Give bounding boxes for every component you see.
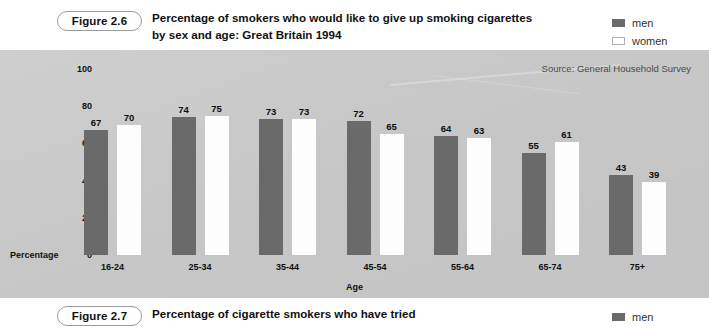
x-axis-tick-label: 16-24 (84, 262, 141, 272)
bar-men: 64 (434, 136, 458, 255)
figure-2-6-header: Figure 2.6 Percentage of smokers who wou… (0, 0, 709, 50)
bar-men: 74 (172, 117, 196, 255)
bar-value-label: 63 (461, 125, 497, 136)
bar-value-label: 39 (636, 169, 672, 180)
bar-chart-plot: 020406080100Percentage677016-24747525-34… (0, 50, 709, 298)
bar-value-label: 61 (549, 129, 585, 140)
bar-women: 73 (292, 119, 316, 255)
figure-2-6-title: Percentage of smokers who would like to … (152, 9, 592, 43)
x-axis-tick-label: 65-74 (522, 262, 579, 272)
legend-item-women: women (612, 33, 667, 48)
x-axis-tick-label: 55-64 (434, 262, 491, 272)
x-axis-label: Age (0, 282, 709, 292)
legend-label-men-2: men (632, 311, 653, 323)
x-axis-tick-label: 75+ (609, 262, 666, 272)
x-axis-tick-label: 45-54 (347, 262, 404, 272)
bar-group: 433975+ (609, 65, 666, 255)
legend-label-women: women (632, 35, 667, 47)
legend-item-men: men (612, 15, 667, 30)
bar-women: 75 (205, 116, 229, 256)
bar-value-label: 67 (78, 117, 114, 128)
figure-2-6-title-line-2: by sex and age: Great Britain 1994 (152, 26, 592, 43)
bar-value-label: 64 (428, 123, 464, 134)
bar-women: 65 (380, 134, 404, 255)
bar-men: 67 (84, 130, 108, 255)
bar-value-label: 43 (603, 162, 639, 173)
bar-value-label: 72 (341, 108, 377, 119)
bar-men: 73 (259, 119, 283, 255)
bar-group: 747525-34 (172, 65, 229, 255)
bar-women: 61 (555, 142, 579, 255)
x-axis-tick-label: 35-44 (259, 262, 316, 272)
bar-group: 646355-64 (434, 65, 491, 255)
figure-2-7-header: Figure 2.7 Percentage of cigarette smoke… (0, 298, 709, 328)
bar-value-label: 73 (253, 106, 289, 117)
figure-2-7-title-line-1: Percentage of cigarette smokers who have… (152, 307, 416, 320)
bar-women: 39 (642, 182, 666, 255)
bar-men: 55 (522, 153, 546, 255)
x-axis-tick-label: 25-34 (172, 262, 229, 272)
bar-group: 556165-74 (522, 65, 579, 255)
bar-value-label: 74 (166, 104, 202, 115)
figure-2-6-legend: men women (612, 15, 667, 51)
chart-panel: Source: General Household Survey 0204060… (0, 50, 709, 298)
bar-group: 677016-24 (84, 65, 141, 255)
bar-women: 70 (117, 125, 141, 255)
y-axis-label: Percentage (10, 250, 59, 260)
legend-swatch-women-icon (612, 37, 625, 45)
figure-2-7-title: Percentage of cigarette smokers who have… (152, 305, 592, 322)
legend-swatch-men-icon (612, 19, 625, 27)
bar-value-label: 65 (374, 121, 410, 132)
figure-2-6-badge: Figure 2.6 (57, 11, 142, 31)
figure-2-7-badge: Figure 2.7 (57, 306, 142, 326)
legend-label-men: men (632, 17, 653, 29)
bar-value-label: 55 (516, 140, 552, 151)
bar-group: 726545-54 (347, 65, 404, 255)
figure-2-6-title-line-1: Percentage of smokers who would like to … (152, 11, 532, 24)
bar-women: 63 (467, 138, 491, 255)
bar-value-label: 73 (286, 106, 322, 117)
legend-item-men-2: men (612, 309, 653, 324)
legend-swatch-men-icon (612, 313, 625, 321)
bar-men: 43 (609, 175, 633, 255)
bar-value-label: 70 (111, 112, 147, 123)
bar-group: 737335-44 (259, 65, 316, 255)
figure-2-7-legend: men (612, 309, 653, 327)
bar-value-label: 75 (199, 103, 235, 114)
bar-men: 72 (347, 121, 371, 255)
